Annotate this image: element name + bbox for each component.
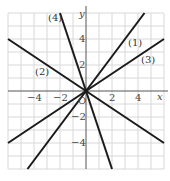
line-3-label: (3) [141,54,155,65]
line-2-label: (2) [35,66,49,77]
origin-point [84,89,88,93]
origin-label: O [78,95,86,106]
line-4-label: (4) [48,12,62,23]
x-tick-neg4: −4 [27,92,42,103]
x-tick-4: 4 [135,92,141,103]
y-axis-label: y [78,8,85,19]
y-tick-2: 2 [79,59,85,70]
y-tick-4: 4 [79,33,85,44]
y-tick-neg4: −4 [71,137,86,148]
x-tick-neg2: −2 [53,92,68,103]
x-axis-label: x [157,91,163,102]
y-tick-neg2: −2 [71,111,86,122]
line-1-label: (1) [128,37,142,48]
x-tick-2: 2 [109,92,115,103]
coordinate-plane: x y O −4 −2 2 4 4 2 −2 −4 (4) (1) (3) (2… [0,0,170,181]
